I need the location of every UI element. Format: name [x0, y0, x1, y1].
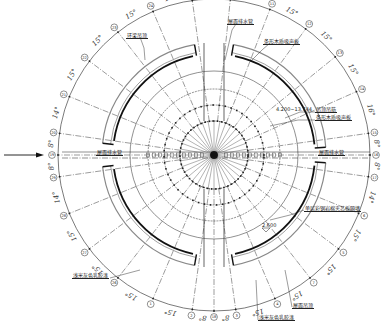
dimension-tick [356, 91, 358, 93]
angle-label: 15° [245, 0, 259, 2]
hub-spoke [215, 122, 220, 152]
dimension-tick [369, 154, 371, 156]
radial-floor-plan: 1920212223242510111213141516176574318212… [0, 0, 384, 328]
dimension-tick [368, 132, 370, 134]
seat-marker [200, 123, 202, 125]
callout-latex-paint-bottom: 浅米灰色乳胶漆 [258, 314, 295, 321]
seat-marker [199, 185, 201, 187]
hub-spoke [181, 149, 211, 154]
hub-spoke [218, 156, 248, 161]
axis-bubble-label: 18 [212, 315, 217, 319]
elevation-triangle [262, 228, 270, 232]
seat-marker [192, 181, 194, 183]
seat-marker [256, 180, 258, 182]
axis-bubble-label: 14 [360, 87, 365, 91]
axis-line [248, 160, 369, 177]
seat-marker [246, 146, 248, 148]
axis-bubble-label: 11 [270, 2, 275, 6]
seat-marker [254, 126, 256, 128]
seat-marker [247, 150, 249, 152]
dimension-tick [89, 60, 91, 62]
hub-spoke [216, 126, 231, 152]
dimension-tick [59, 132, 61, 134]
hub-spoke [215, 159, 220, 189]
dimension-tick [229, 0, 231, 1]
axis-bubble-label: 3 [235, 314, 237, 318]
seat-marker [260, 136, 262, 138]
callout-roof-drain-top: 屋面排水管 [227, 18, 254, 25]
seat-marker [192, 200, 194, 202]
seat-marker [232, 126, 234, 128]
hub-spoke [197, 158, 212, 184]
outer-wall-inner-face [232, 53, 318, 148]
axis-bubble-label: 7 [313, 281, 315, 285]
axis-bubble-label: 28 [62, 214, 67, 218]
wall-end-cap [195, 45, 197, 56]
seat-marker [167, 174, 169, 176]
dimension-tick [309, 277, 311, 279]
wall-end-cap [315, 147, 326, 148]
seat-marker [164, 162, 166, 164]
dimension-tick [274, 298, 276, 300]
seat-marker [215, 188, 217, 190]
axis-bubble-label: 27 [82, 251, 87, 255]
seat-marker [193, 127, 195, 129]
wall-end-cap [232, 254, 234, 265]
elevation-range: 4.200~13.744 [276, 106, 312, 112]
seat-marker [229, 124, 231, 126]
dimension-tick [152, 11, 154, 13]
seat-marker [217, 120, 219, 122]
seat-marker [228, 202, 230, 204]
seat-marker [179, 118, 181, 120]
seat-marker [185, 136, 187, 138]
dimension-tick [89, 248, 91, 250]
dimension-tick [191, 0, 193, 1]
dimension-tick [338, 248, 340, 250]
dimension-tick [368, 176, 370, 178]
axis-bubble-label: 21 [62, 93, 67, 97]
seat-marker [218, 104, 220, 106]
angle-label: 16° [365, 103, 376, 117]
callout-ceiling-hanger: 吊顶吊筋 [315, 106, 337, 113]
seat-marker [249, 190, 251, 192]
seat-marker [241, 135, 243, 137]
dimension-tick [269, 8, 271, 10]
seat-marker [227, 185, 229, 187]
seat-marker [186, 175, 188, 177]
axis-bubble-label: 15 [372, 131, 377, 135]
seat-marker [257, 131, 259, 133]
callout-leader [225, 24, 236, 60]
axis-line [235, 182, 310, 278]
hub-spoke [217, 157, 243, 172]
angle-label: 14° [51, 190, 62, 204]
angle-label: 15° [124, 289, 139, 302]
angle-label: 15° [289, 289, 304, 302]
axis-line [153, 11, 201, 123]
hub-spoke [216, 158, 231, 184]
angle-label: 15° [349, 228, 362, 243]
dimension-tick [59, 176, 61, 178]
angle-label: 8° [47, 162, 56, 171]
entrance-arrow-head [36, 153, 44, 158]
axis-bubble-label: 29 [51, 176, 56, 180]
elevation-mark: 2.600 [262, 222, 276, 228]
axis-bubble-label: 26 [112, 281, 117, 285]
seat-marker [164, 144, 166, 146]
seat-marker [165, 168, 167, 170]
callout-roof-drain-left: 屋面排水管 [96, 149, 123, 156]
axis-bubble-label: 22 [82, 56, 87, 60]
seat-marker [224, 105, 226, 107]
seat-marker [190, 129, 192, 131]
seat-marker [261, 169, 263, 171]
callout-roof-drain-right: 屋面排水管 [318, 149, 345, 156]
seat-marker [194, 108, 196, 110]
seat-marker [263, 148, 265, 150]
seat-marker [234, 181, 236, 183]
hub-spoke [217, 138, 243, 153]
wall-end-cap [315, 162, 326, 163]
seat-marker [238, 131, 240, 133]
seat-marker [239, 197, 241, 199]
seat-marker [243, 138, 245, 140]
callout-leader [285, 270, 292, 307]
axis-bubble-label: 19 [50, 153, 55, 157]
